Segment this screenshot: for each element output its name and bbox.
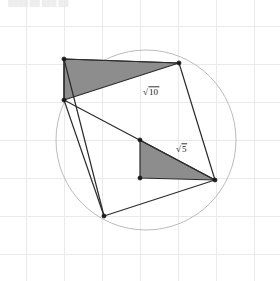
vertex-bottom — [102, 214, 106, 218]
vertex-top-right — [177, 61, 181, 65]
label-triangle-sqrt5: √5 — [176, 144, 187, 154]
geometry-figure: √10√5 — [0, 0, 280, 281]
radical-sign: √ — [176, 144, 181, 154]
vertex-top-left — [62, 57, 66, 61]
figure-canvas: ████ ██ ███ ██ √10√5 — [0, 0, 280, 281]
vertex-left-middle — [62, 98, 66, 102]
shaded-triangles-layer — [64, 59, 215, 180]
radicand: 10 — [149, 87, 159, 97]
math-labels-layer: √10√5 — [143, 87, 187, 154]
vertex-inner-top — [138, 138, 142, 142]
radical-sign: √ — [143, 87, 148, 97]
radicand: 5 — [182, 144, 187, 154]
vertex-inner-bottom — [138, 176, 142, 180]
triangle-sqrt10 — [64, 59, 179, 100]
vertex-right — [213, 178, 217, 182]
label-triangle-sqrt10: √10 — [143, 87, 159, 97]
